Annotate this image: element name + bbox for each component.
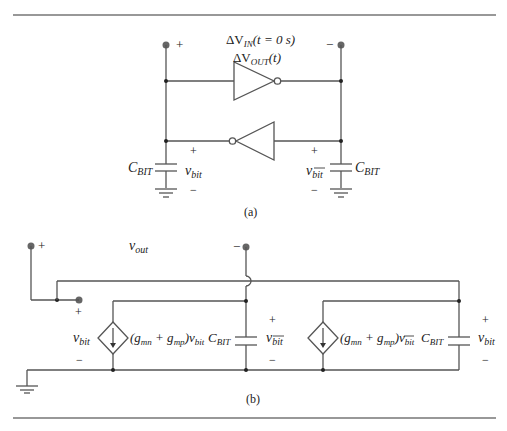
delta-vout-label: ΔVOUT(t) [233,50,281,67]
part-b-circuit [16,243,471,394]
a-vbit-label: vbit [185,163,202,180]
a-left-terminal-sign: + [176,37,183,52]
a-left-minus: − [190,183,197,197]
b-cap1-v-label: vbit [266,330,283,347]
inverter-bottom [236,122,274,160]
figure-canvas: + − ΔVIN(t = 0 s) ΔVOUT(t) + vbit − CBIT… [0,0,507,431]
a-right-cbit-label: CBIT [355,160,381,177]
source2-expression: (gmn + gmp)vbit [340,330,415,347]
dependent-current-source-2 [308,322,338,354]
caption-b: (b) [246,392,260,406]
b-cap1-minus: − [269,353,276,367]
ground-icon-left [155,189,177,197]
ground-icon-b [16,386,38,393]
b-cap2-minus: − [482,353,489,367]
b-inner-plus: + [75,305,82,319]
ground-icon-right [330,189,352,197]
b-left-minus: − [76,353,83,367]
b-left-vbit-label: vbit [73,330,90,347]
b-cap1-label: CBIT [208,330,231,347]
a-right-plus: + [311,144,318,158]
b-left-terminal-sign: + [38,238,45,253]
b-right-terminal-sign: − [233,239,240,254]
a-vbitbar-label: vbit [306,163,323,180]
caption-a: (a) [244,205,257,219]
inverter-top [234,62,274,100]
b-cap2-v-label: vbit [478,330,495,347]
a-left-plus: + [190,144,197,158]
b-cap2-plus: + [482,313,489,327]
a-left-cbit-label: CBIT [128,160,154,177]
b-cap2-label: CBIT [421,330,444,347]
source1-expression: (gmn + gmp)vbit [130,330,205,347]
a-right-minus: − [311,183,318,197]
vout-label: vout [129,238,148,255]
b-cap1-plus: + [269,313,276,327]
a-right-terminal-sign: − [326,37,333,52]
dependent-current-source-1 [98,322,128,354]
delta-vin-label: ΔVIN(t = 0 s) [226,32,295,49]
